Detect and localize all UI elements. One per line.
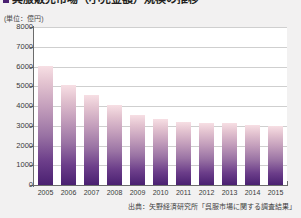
bar [130,115,144,185]
x-axis-tick-label: 2012 [195,188,218,197]
x-axis-right-cap [287,181,288,186]
page-title: 呉服販売市場（小売金額）規模の推移 [12,0,199,4]
y-axis-tick-label: 3000 [16,122,33,130]
bar [61,85,75,185]
bar [38,66,52,185]
bar [84,95,98,185]
bar [107,105,121,185]
x-axis-tick-label: 2013 [218,188,241,197]
bar [268,126,282,185]
y-axis-tick-label: 5000 [16,82,33,90]
chart-figure: 呉服販売市場（小売金額）規模の推移 (単位：億円) 01000200030004… [0,0,301,218]
x-axis-tick-label: 2008 [103,188,126,197]
bar [176,122,190,185]
x-axis-line [33,185,288,186]
chart-title-strip: 呉服販売市場（小売金額）規模の推移 [0,0,301,4]
y-axis-tick-label: 4000 [16,102,33,110]
y-axis-tick-label: 2000 [16,142,33,150]
x-axis-tick-label: 2010 [149,188,172,197]
bar [245,125,259,185]
bar [153,119,167,185]
y-axis-tick-label: 0 [29,181,33,189]
x-axis-tick-label: 2009 [126,188,149,197]
x-axis-tick-label: 2014 [241,188,264,197]
bar-series [34,27,287,185]
x-axis-tick-label: 2007 [80,188,103,197]
y-axis-tick-label: 1000 [16,161,33,169]
y-axis-tick-label: 7000 [16,43,33,51]
y-axis-tick-label: 6000 [16,63,33,71]
x-axis-tick-label: 2011 [172,188,195,197]
bar [199,123,213,185]
x-axis-tick-label: 2006 [57,188,80,197]
x-axis-tick-label: 2015 [264,188,287,197]
source-note: 出典：矢野経済研究所「呉服市場に関する調査結果」 [128,201,296,211]
y-axis-tick-label: 8000 [16,23,33,31]
x-axis-tick-labels: (年) 200520062007200820092010201120122013… [34,188,287,200]
bar [222,123,236,185]
page-title-line: 呉服販売市場（小売金額）規模の推移 [0,0,301,4]
square-bullet-icon [3,0,9,3]
x-axis-tick-label: 2005 [34,188,57,197]
